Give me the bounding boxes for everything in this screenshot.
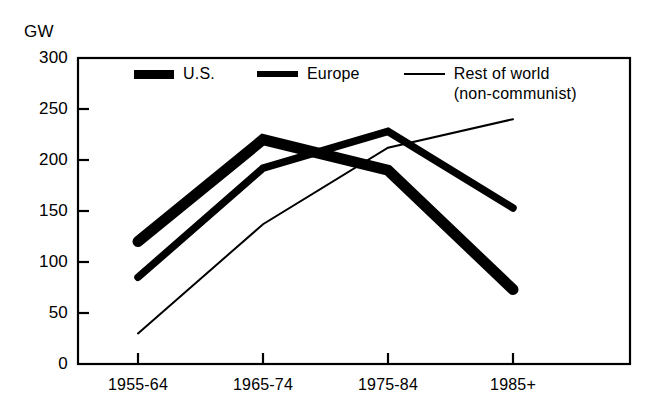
chart-figure: GW 050100150200250300 1955-641965-741975… [0,0,654,414]
plot-border [78,58,630,364]
data-series-line [138,131,513,277]
y-axis-ticks [78,109,89,313]
data-series-line [138,140,513,290]
axes-frame [78,58,630,364]
data-series-group [138,119,513,333]
x-axis-ticks [138,353,513,364]
plot-area [0,0,654,414]
